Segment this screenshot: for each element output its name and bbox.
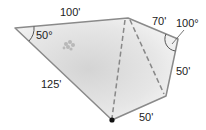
bottom-point-marker <box>109 117 114 122</box>
label-right-angle: 100° <box>176 17 199 29</box>
label-left-side: 125' <box>41 78 61 90</box>
label-bottom-right-side: 50' <box>139 111 153 123</box>
label-top-side: 100' <box>60 6 80 18</box>
label-left-angle: 50° <box>36 29 53 41</box>
label-upper-right-side: 70' <box>152 15 166 27</box>
label-right-side: 50' <box>176 65 190 77</box>
lot-diagram: 100' 70' 100° 50° 50' 125' 50' <box>0 0 206 130</box>
